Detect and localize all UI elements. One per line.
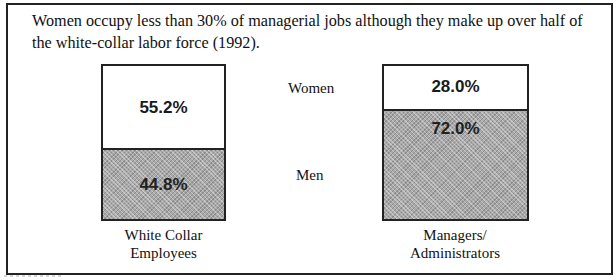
- bar-segment-women: 28.0%: [384, 66, 527, 109]
- bar-white-collar-employees: 55.2% 44.8%: [101, 64, 226, 221]
- bar-segment-men: 44.8%: [103, 148, 224, 219]
- value-label-men: 44.8%: [139, 175, 187, 195]
- value-label-men: 72.0%: [431, 119, 479, 139]
- category-label-line: Employees: [86, 244, 241, 262]
- category-label-line: Managers/: [375, 226, 535, 244]
- category-label-managers: Managers/ Administrators: [375, 226, 535, 262]
- category-label-line: Administrators: [375, 244, 535, 262]
- bar-segment-women: 55.2%: [103, 66, 224, 150]
- legend-women: Women: [288, 80, 334, 97]
- value-label-women: 28.0%: [431, 77, 479, 97]
- value-label-women: 55.2%: [139, 98, 187, 118]
- legend-men: Men: [296, 167, 324, 184]
- category-label-white-collar: White Collar Employees: [86, 226, 241, 262]
- bar-segment-men: 72.0%: [384, 109, 527, 219]
- bar-managers-administrators: 28.0% 72.0%: [382, 64, 529, 221]
- chart-caption: Women occupy less than 30% of managerial…: [32, 10, 602, 54]
- scan-artifact: [4, 275, 64, 277]
- category-label-line: White Collar: [86, 226, 241, 244]
